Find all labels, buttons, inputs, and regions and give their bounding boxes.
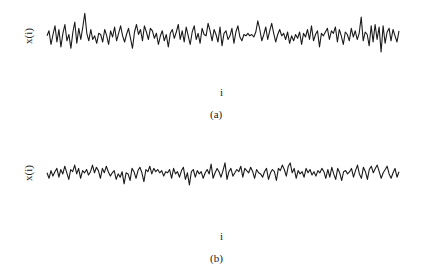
- plot-canvas: [0, 0, 427, 276]
- x-axis-label-b: i: [220, 230, 223, 242]
- y-axis-label-b: x(i): [22, 158, 34, 188]
- y-axis-label-a: x(i): [22, 21, 34, 51]
- x-axis-label-a: i: [220, 86, 223, 98]
- caption-a: (a): [210, 108, 222, 120]
- caption-b: (b): [210, 252, 223, 264]
- signal-line-b: [47, 163, 399, 185]
- signal-line-a: [47, 13, 399, 52]
